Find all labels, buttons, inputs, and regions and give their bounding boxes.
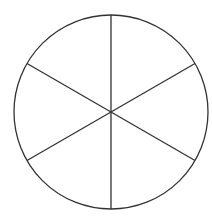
diagram-canvas: [0, 0, 212, 217]
circle-divided-into-six-sectors: [0, 0, 212, 217]
